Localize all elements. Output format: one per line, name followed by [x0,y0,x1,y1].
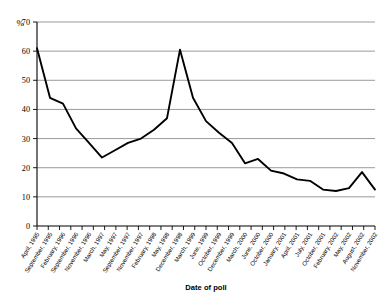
y-axis-unit-label: % [17,18,25,28]
y-label-group: 010203040506070 [22,18,30,231]
y-tick-label: 0 [26,222,30,231]
plot-area [37,22,375,226]
y-tick-group [33,22,37,226]
x-tick-group [37,226,375,230]
plot-background [37,22,375,226]
x-category-label-group: April, 1995September, 1995February, 1996… [19,230,379,274]
y-tick-label: 30 [22,135,30,144]
y-tick-label: 50 [22,76,30,85]
y-tick-label: 40 [22,105,30,114]
chart-svg: 010203040506070 % April, 1995September, … [0,0,392,297]
y-tick-label: 10 [22,193,30,202]
x-axis-title: Date of poll [185,283,226,292]
y-tick-label: 60 [22,47,30,56]
poll-line-chart: 010203040506070 % April, 1995September, … [0,0,392,297]
y-tick-label: 20 [22,164,30,173]
